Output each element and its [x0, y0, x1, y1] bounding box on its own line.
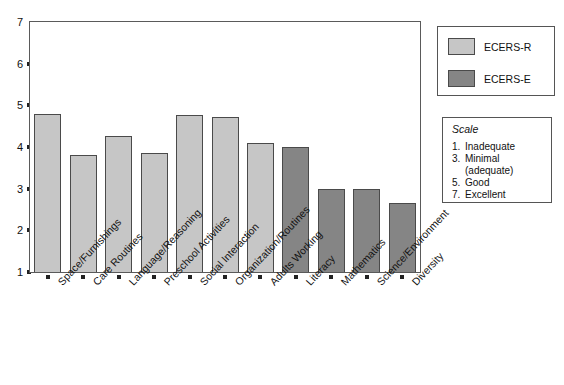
- y-tick-label-2: 2: [17, 225, 23, 236]
- y-tick-label-6: 6: [17, 58, 23, 69]
- y-tick-label-3: 3: [17, 183, 23, 194]
- scale-item-text: Minimal: [465, 153, 499, 165]
- scale-item-number: 7.: [452, 189, 465, 201]
- scale-item: 1.Inadequate: [452, 141, 551, 153]
- x-axis-labels: Space/FurnishingsCare RoutinesLanguage/R…: [0, 278, 564, 385]
- scale-items: 1.Inadequate3.Minimal(adequate)5.Good7.E…: [452, 141, 551, 202]
- y-tick-label-4: 4: [17, 142, 23, 153]
- scale-item: 7.Excellent: [452, 189, 551, 201]
- legend-label: ECERS-E: [484, 73, 531, 85]
- legend: ECERS-RECERS-E: [437, 26, 555, 96]
- legend-label: ECERS-R: [484, 41, 531, 53]
- y-tick-label-7: 7: [17, 17, 23, 28]
- scale-item-text: Good: [465, 177, 489, 189]
- scale-legend-box: Scale 1.Inadequate3.Minimal(adequate)5.G…: [442, 117, 552, 203]
- legend-item: ECERS-R: [448, 38, 531, 55]
- scale-item-text: Excellent: [465, 189, 506, 201]
- scale-item-number: 1.: [452, 141, 465, 153]
- legend-swatch: [448, 38, 475, 55]
- scale-title: Scale: [452, 124, 551, 135]
- bars-container: [30, 22, 420, 272]
- ecers-bar-chart: 1234567 Space/FurnishingsCare RoutinesLa…: [0, 0, 564, 385]
- scale-item-number: 3.: [452, 153, 465, 165]
- scale-item-text: Inadequate: [465, 141, 515, 153]
- scale-item: 5.Good: [452, 177, 551, 189]
- y-tick-label-1: 1: [17, 267, 23, 278]
- legend-swatch: [448, 70, 475, 87]
- bar: [34, 114, 61, 272]
- legend-item: ECERS-E: [448, 70, 531, 87]
- y-tick-label-5: 5: [17, 100, 23, 111]
- scale-item-continuation: (adequate): [452, 165, 551, 177]
- scale-item-number: 5.: [452, 177, 465, 189]
- scale-item: 3.Minimal: [452, 153, 551, 165]
